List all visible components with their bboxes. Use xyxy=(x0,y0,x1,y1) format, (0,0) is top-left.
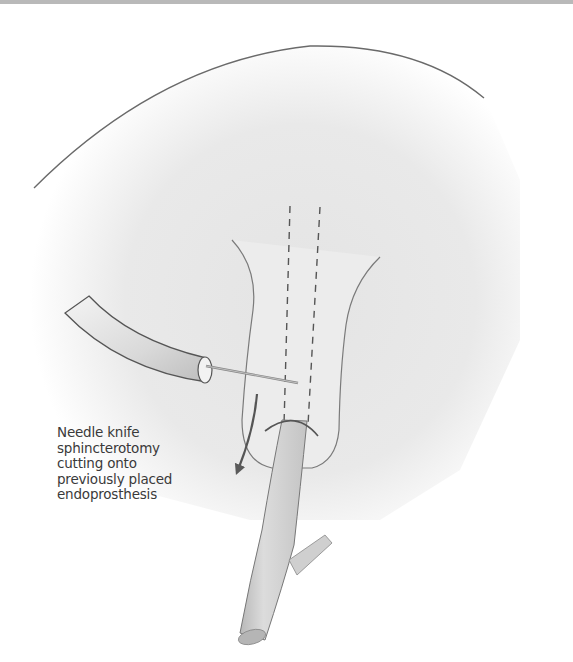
sphincterotomy-illustration xyxy=(0,0,573,662)
annotation-line-2: sphincterotomy xyxy=(57,441,172,457)
annotation-line-1: Needle knife xyxy=(57,425,172,441)
annotation-line-5: endoprosthesis xyxy=(57,487,172,503)
annotation-label: Needle knife sphincterotomy cutting onto… xyxy=(57,425,172,503)
annotation-line-4: previously placed xyxy=(57,472,172,488)
annotation-line-3: cutting onto xyxy=(57,456,172,472)
